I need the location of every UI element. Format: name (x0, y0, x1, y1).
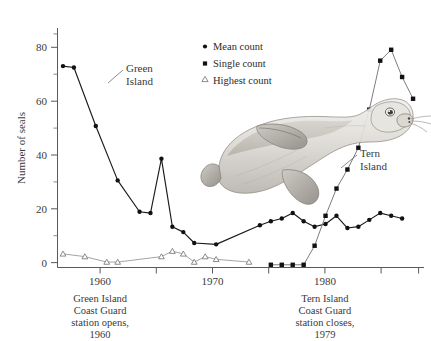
x-tick-label-1970: 1970 (202, 275, 225, 287)
data-point-circle (181, 230, 185, 234)
tern-island-label-line2: Island (360, 160, 387, 172)
tern-island-label-line1: Tern (360, 147, 380, 159)
y-axis: 80 60 40 20 0 Number of seals (15, 28, 58, 269)
data-point-circle (334, 214, 338, 218)
data-point-circle (389, 214, 393, 218)
annot-tern-line4: 1979 (314, 329, 335, 340)
data-point-circle (323, 222, 327, 226)
data-point-circle (94, 124, 98, 128)
data-point-circle (258, 223, 262, 227)
y-tick-label-60: 60 (36, 95, 48, 107)
data-point-circle (400, 216, 404, 220)
data-point-triangle (169, 248, 175, 253)
y-tick-label-80: 80 (36, 41, 48, 53)
data-point-triangle (60, 251, 66, 256)
data-point-square (411, 97, 415, 101)
data-point-square (312, 244, 316, 248)
series-highest-count (60, 248, 252, 264)
green-island-label-group: Green Island (108, 62, 153, 87)
legend-label-single-count: Single count (213, 58, 266, 69)
data-point-circle (291, 211, 295, 215)
annot-tern-line3: station closes, (295, 317, 354, 328)
annot-tern-line2: Coast Guard (299, 305, 353, 316)
data-point-circle (61, 64, 65, 68)
legend-marker-circle-icon (203, 44, 207, 48)
annot-tern-line1: Tern Island (301, 293, 349, 304)
data-point-circle (367, 218, 371, 222)
seal-population-chart: 80 60 40 20 0 Number of seals 1960 1970 … (0, 0, 431, 341)
data-point-square (345, 167, 349, 171)
data-point-square (400, 75, 404, 79)
y-tick-label-40: 40 (36, 149, 48, 161)
data-point-circle (280, 216, 284, 220)
data-point-circle (170, 224, 174, 228)
green-island-label-line1: Green (126, 62, 153, 74)
chart-svg: 80 60 40 20 0 Number of seals 1960 1970 … (0, 0, 431, 341)
annotation-green-island: Green Island Coast Guard station opens, … (71, 293, 129, 340)
series-line (63, 251, 249, 262)
data-point-square (291, 263, 295, 267)
data-point-circle (72, 65, 76, 69)
x-tick-label-1980: 1980 (314, 275, 337, 287)
data-point-square (280, 263, 284, 267)
data-point-circle (148, 211, 152, 215)
data-point-circle (301, 219, 305, 223)
green-island-leader (108, 70, 123, 83)
legend-marker-triangle-icon (202, 76, 208, 81)
annot-green-line3: station opens, (71, 317, 129, 328)
x-axis-ticks (100, 268, 419, 274)
data-point-triangle (159, 254, 165, 259)
data-point-square (323, 214, 327, 218)
data-point-circle (115, 178, 119, 182)
green-island-label-line2: Island (126, 75, 153, 87)
data-point-circle (269, 219, 273, 223)
x-tick-label-1960: 1960 (89, 275, 112, 287)
data-point-square (269, 263, 273, 267)
chart-legend: Mean count Single count Highest count (202, 41, 272, 86)
data-point-circle (214, 242, 218, 246)
data-point-circle (192, 241, 196, 245)
y-axis-ticks (51, 34, 58, 263)
y-axis-title: Number of seals (15, 112, 27, 184)
data-point-circle (345, 226, 349, 230)
annotation-tern-island: Tern Island Coast Guard station closes, … (295, 293, 354, 340)
annot-green-line1: Green Island (73, 293, 128, 304)
data-point-circle (378, 211, 382, 215)
data-point-circle (159, 156, 163, 160)
y-tick-label-0: 0 (42, 257, 48, 269)
legend-label-mean-count: Mean count (213, 41, 263, 52)
annot-green-line2: Coast Guard (74, 305, 128, 316)
legend-label-highest-count: Highest count (213, 75, 272, 86)
y-tick-label-20: 20 (36, 203, 48, 215)
data-point-circle (312, 224, 316, 228)
data-point-square (301, 263, 305, 267)
data-point-triangle (202, 254, 208, 259)
x-axis: 1960 1970 1980 (58, 268, 425, 288)
data-point-circle (356, 224, 360, 228)
data-point-circle (137, 210, 141, 214)
annot-green-line4: 1960 (90, 329, 111, 340)
data-point-square (378, 58, 382, 62)
data-point-square (334, 186, 338, 190)
legend-marker-square-icon (203, 61, 207, 65)
data-point-square (389, 48, 393, 52)
seal-illustration (201, 99, 431, 205)
